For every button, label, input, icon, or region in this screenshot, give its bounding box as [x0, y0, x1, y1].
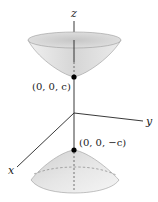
z-axis-label: z [70, 7, 77, 20]
lower-vertex-label: (0, 0, −c) [79, 137, 126, 148]
upper-vertex-label: (0, 0, c) [32, 81, 71, 92]
lower-vertex-point [71, 147, 76, 152]
y-axis-line [74, 113, 143, 121]
upper-vertex-point [71, 74, 76, 79]
y-axis-label: y [145, 115, 153, 128]
upper-sheet [28, 32, 121, 77]
lower-sheet [31, 150, 119, 193]
hyperboloid-diagram: z (0, 0, c) x y (0, 0, −c) [0, 0, 158, 202]
x-axis-label: x [8, 164, 15, 177]
